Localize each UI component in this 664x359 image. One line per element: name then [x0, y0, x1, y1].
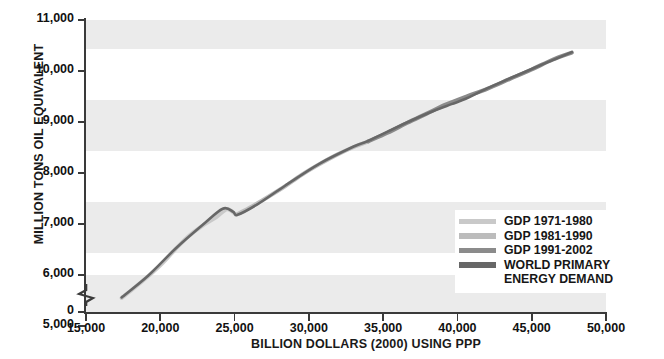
- x-axis-tick-label: 20,000: [120, 321, 200, 335]
- y-axis-line: [84, 18, 86, 314]
- legend-swatch-gdp-1981-1990: [459, 233, 496, 239]
- y-axis-tick: [78, 19, 86, 21]
- chart-legend: GDP 1971-1980 GDP 1981-1990 GDP 1991-200…: [455, 210, 619, 293]
- x-axis-tick-label: 45,000: [492, 321, 572, 335]
- y-axis-tick-label: 6,000: [4, 266, 74, 280]
- x-axis-title: BILLION DOLLARS (2000) USING PPP: [76, 337, 656, 351]
- y-axis-title: MILLION TONS OIL EQUIVALENT: [32, 4, 46, 284]
- legend-label: GDP 1991-2002: [504, 243, 593, 258]
- x-axis-tick-label: 50,000: [566, 321, 646, 335]
- x-axis-tick-label: 30,000: [269, 321, 349, 335]
- x-axis-tick: [85, 313, 87, 321]
- axis-break-icon: [75, 283, 97, 307]
- x-axis-tick-label: 15,000: [46, 321, 126, 335]
- legend-item: GDP 1981-1990: [459, 229, 613, 244]
- x-axis-tick-label: 25,000: [195, 321, 275, 335]
- x-axis-tick: [531, 313, 533, 321]
- legend-item-continuation: ENERGY DEMAND: [459, 272, 613, 287]
- y-axis-tick-label: 0: [4, 303, 74, 317]
- y-axis-tick-label: 9,000: [4, 113, 74, 127]
- x-axis-tick: [308, 313, 310, 321]
- x-axis-tick-label: 35,000: [343, 321, 423, 335]
- x-axis-tick: [382, 313, 384, 321]
- x-axis-tick-label: 40,000: [417, 321, 497, 335]
- y-axis-tick: [78, 70, 86, 72]
- y-axis-tick-label: 8,000: [4, 164, 74, 178]
- x-axis-line: [84, 312, 607, 314]
- chart-figure: MILLION TONS OIL EQUIVALENT BILLION DOLL…: [0, 0, 664, 359]
- x-axis-tick: [457, 313, 459, 321]
- y-axis-tick: [78, 274, 86, 276]
- y-axis-tick: [78, 172, 86, 174]
- legend-swatch-gdp-1971-1980: [459, 219, 496, 225]
- legend-label: GDP 1981-1990: [504, 229, 593, 244]
- legend-label: WORLD PRIMARY: [504, 258, 610, 273]
- y-axis-tick-label: 7,000: [4, 215, 74, 229]
- x-axis-tick: [605, 313, 607, 321]
- legend-label: GDP 1971-1980: [504, 214, 593, 229]
- y-axis-tick-label: 11,000: [4, 11, 74, 25]
- x-axis-tick: [234, 313, 236, 321]
- legend-item: WORLD PRIMARY: [459, 258, 613, 273]
- legend-swatch-gdp-1991-2002: [459, 248, 496, 254]
- legend-label: ENERGY DEMAND: [504, 272, 613, 287]
- x-axis-tick: [159, 313, 161, 321]
- legend-item: GDP 1971-1980: [459, 214, 613, 229]
- y-axis-tick: [78, 121, 86, 123]
- y-axis-tick-label: 10,000: [4, 62, 74, 76]
- legend-swatch-world-primary-energy-demand: [459, 262, 496, 268]
- y-axis-tick: [78, 223, 86, 225]
- legend-item: GDP 1991-2002: [459, 243, 613, 258]
